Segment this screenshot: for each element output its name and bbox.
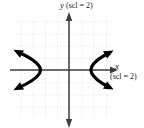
x-axis-scale-label: (scl = 2) — [110, 72, 137, 81]
x-axis-scale-note: (scl = 2) — [110, 72, 137, 81]
coordinate-plane-graphic — [0, 0, 144, 128]
y-axis-arrowhead-top — [66, 12, 72, 21]
x-axis-variable-label: x — [115, 61, 119, 71]
x-axis-label: x — [115, 62, 119, 71]
graph-figure: y (scl = 2) x (scl = 2) — [0, 0, 144, 128]
y-axis-arrowhead-bottom — [66, 119, 72, 128]
y-axis-label: y (scl = 2) — [60, 1, 93, 10]
grid-layer — [16, 20, 113, 118]
y-axis-scale-label: (scl = 2) — [66, 1, 93, 10]
